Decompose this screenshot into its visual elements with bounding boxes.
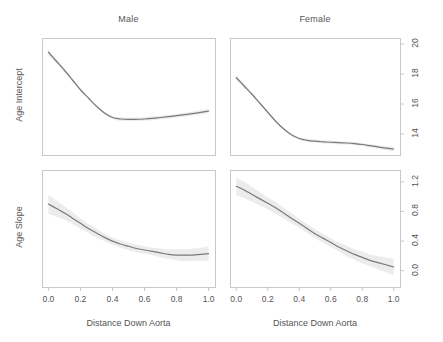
plot-canvas	[0, 0, 443, 342]
x-tick-label-female-age-slope-3: 0.6	[317, 294, 345, 304]
panel-male-age-intercept	[43, 39, 216, 156]
panel-frame-female-age-slope	[231, 171, 401, 288]
panel-frame-male-age-slope	[43, 171, 216, 288]
panel-female-age-intercept	[231, 39, 405, 156]
y-tick-label-female-age-slope-0: 0.0	[410, 256, 420, 284]
x-tick-label-male-age-slope-0: 0.0	[34, 294, 62, 304]
y-tick-label-female-age-intercept-2: 18	[410, 59, 420, 87]
panel-male-age-slope	[43, 171, 216, 292]
y-tick-label-female-age-intercept-1: 16	[410, 89, 420, 117]
x-tick-label-female-age-slope-5: 1.0	[380, 294, 408, 304]
panel-female-age-slope	[231, 171, 405, 292]
curve-female-age-intercept	[236, 78, 393, 149]
x-tick-label-male-age-slope-1: 0.2	[66, 294, 94, 304]
x-tick-label-male-age-slope-3: 0.6	[131, 294, 159, 304]
x-tick-label-female-age-slope-2: 0.4	[285, 294, 313, 304]
x-tick-label-female-age-slope-0: 0.0	[222, 294, 250, 304]
figure-root: Male Female Age Intercept Age Slope Dist…	[0, 0, 443, 342]
panel-frame-male-age-intercept	[43, 39, 216, 156]
x-tick-label-male-age-slope-4: 0.8	[163, 294, 191, 304]
x-tick-label-male-age-slope-2: 0.4	[98, 294, 126, 304]
x-tick-label-female-age-slope-4: 0.8	[348, 294, 376, 304]
x-tick-label-female-age-slope-1: 0.2	[254, 294, 282, 304]
x-tick-label-male-age-slope-5: 1.0	[195, 294, 223, 304]
confidence-band-male-age-intercept	[48, 49, 208, 121]
y-tick-label-female-age-slope-2: 0.8	[410, 196, 420, 224]
confidence-band-male-age-slope	[48, 194, 208, 261]
curve-male-age-intercept	[48, 52, 208, 119]
y-tick-label-female-age-slope-1: 0.4	[410, 226, 420, 254]
y-tick-label-female-age-intercept-0: 14	[410, 119, 420, 147]
y-tick-label-female-age-slope-3: 1.2	[410, 167, 420, 195]
y-tick-label-female-age-intercept-3: 20	[410, 29, 420, 57]
panel-frame-female-age-intercept	[231, 39, 401, 156]
confidence-band-female-age-intercept	[236, 75, 393, 151]
